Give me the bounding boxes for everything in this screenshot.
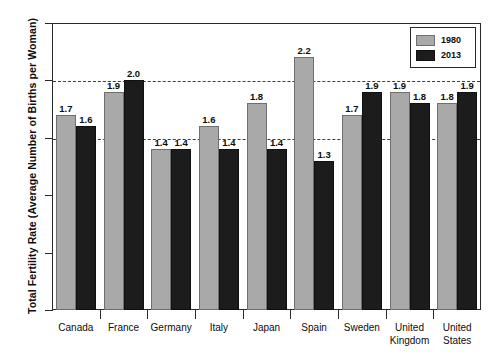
bar-value-label: 1.9: [365, 80, 378, 91]
x-tick-mark: [195, 310, 196, 319]
bar-2013: 1.4: [267, 149, 287, 310]
bar-group: 1.81.4: [247, 23, 287, 310]
bar-2013: 1.9: [457, 92, 477, 310]
x-tick-mark: [147, 310, 148, 319]
bar-value-label: 1.8: [441, 91, 454, 102]
bar-value-label: 2.0: [127, 68, 140, 79]
bar-value-label: 2.2: [298, 45, 311, 56]
bar-1980: 1.9: [104, 92, 124, 310]
bar-1980: 1.6: [199, 126, 219, 310]
legend-swatch-1980: [416, 35, 435, 46]
bar-group: 1.71.9: [342, 23, 382, 310]
bar-value-label: 1.9: [107, 80, 120, 91]
bar-value-label: 1.4: [155, 137, 168, 148]
bar-value-label: 1.4: [270, 137, 283, 148]
bar-value-label: 1.8: [413, 91, 426, 102]
bar-2013: 1.6: [76, 126, 96, 310]
bar-1980: 1.8: [247, 103, 267, 310]
bar-2013: 1.8: [410, 103, 430, 310]
bar-value-label: 1.7: [59, 103, 72, 114]
x-tick-mark: [338, 310, 339, 319]
bar-value-label: 1.4: [175, 137, 188, 148]
bar-value-label: 1.9: [461, 80, 474, 91]
bar-1980: 1.9: [390, 92, 410, 310]
bar-value-label: 1.6: [79, 114, 92, 125]
bar-2013: 1.4: [171, 149, 191, 310]
bar-1980: 1.7: [56, 115, 76, 310]
y-axis-title: Total Fertility Rate (Average Number of …: [26, 16, 38, 316]
bar-value-label: 1.4: [222, 137, 235, 148]
x-tick-mark: [243, 310, 244, 319]
bar-1980: 2.2: [294, 57, 314, 310]
y-tick-mark: [45, 310, 53, 311]
bar-1980: 1.4: [151, 149, 171, 310]
bar-2013: 2.0: [124, 80, 144, 310]
x-tick-mark: [433, 310, 434, 319]
bar-2013: 1.9: [362, 92, 382, 310]
bar-group: 1.61.4: [199, 23, 239, 310]
x-category-label: UnitedStates: [421, 322, 493, 347]
fertility-rate-bar-chart: Total Fertility Rate (Average Number of …: [0, 0, 504, 364]
bar-group: 1.41.4: [151, 23, 191, 310]
legend-item-2013: 2013: [416, 48, 470, 62]
x-tick-mark: [100, 310, 101, 319]
bar-value-label: 1.7: [345, 103, 358, 114]
legend-label-1980: 1980: [441, 35, 461, 45]
bar-value-label: 1.3: [318, 149, 331, 160]
bar-1980: 1.7: [342, 115, 362, 310]
bar-2013: 1.4: [219, 149, 239, 310]
bar-group: 1.92.0: [104, 23, 144, 310]
bar-value-label: 1.8: [250, 91, 263, 102]
x-tick-mark: [386, 310, 387, 319]
bar-value-label: 1.9: [393, 80, 406, 91]
legend-item-1980: 1980: [416, 33, 470, 47]
legend: 1980 2013: [410, 27, 476, 68]
bar-value-label: 1.6: [202, 114, 215, 125]
x-tick-mark: [290, 310, 291, 319]
bar-2013: 1.3: [314, 161, 334, 310]
bar-group: 2.21.3: [294, 23, 334, 310]
legend-label-2013: 2013: [441, 50, 461, 60]
legend-swatch-2013: [416, 50, 435, 61]
bar-1980: 1.8: [437, 103, 457, 310]
bar-group: 1.71.6: [56, 23, 96, 310]
